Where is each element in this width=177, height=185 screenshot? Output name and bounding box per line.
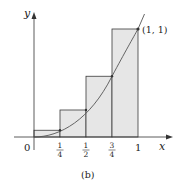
rectangle-3	[86, 76, 112, 137]
tick-three-quarter-num: 3	[110, 141, 115, 150]
figure-caption: (b)	[81, 169, 95, 180]
tick-quarter-num: 1	[58, 141, 63, 150]
point-quarter	[59, 129, 61, 131]
x-axis-arrow-icon	[166, 135, 173, 140]
riemann-sum-chart: y x 0 (1, 1) 1 4 1 2 3 4 1 (b)	[0, 0, 177, 185]
y-axis-label: y	[23, 7, 31, 20]
tick-one: 1	[135, 142, 141, 153]
point-three-quarter	[111, 75, 113, 77]
tick-three-quarter: 3 4	[109, 141, 116, 159]
point-half	[85, 109, 87, 111]
riemann-rectangles	[34, 29, 138, 137]
rectangle-2	[60, 110, 86, 137]
tick-half-den: 2	[84, 150, 89, 159]
tick-half-num: 1	[84, 141, 89, 150]
tick-quarter-den: 4	[58, 150, 63, 159]
y-axis-arrow-icon	[32, 12, 37, 19]
tick-quarter: 1 4	[57, 141, 64, 159]
tick-three-quarter-den: 4	[110, 150, 115, 159]
tick-half: 1 2	[83, 141, 90, 159]
rectangle-4	[112, 29, 138, 137]
x-axis-label: x	[159, 140, 166, 153]
origin-label: 0	[24, 142, 30, 153]
point-one-one	[136, 27, 139, 30]
point-label: (1, 1)	[142, 24, 168, 35]
